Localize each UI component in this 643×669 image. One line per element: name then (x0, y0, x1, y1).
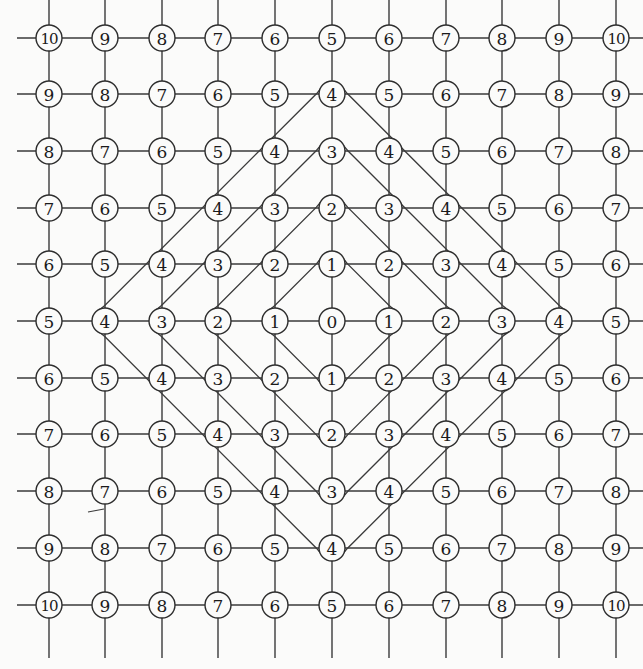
grid-node: 3 (262, 421, 288, 447)
grid-node: 9 (546, 592, 572, 618)
grid-node: 4 (546, 308, 572, 334)
node-label: 8 (100, 539, 111, 559)
node-label: 7 (157, 85, 168, 105)
node-label: 8 (44, 482, 55, 502)
grid-node: 7 (433, 25, 459, 51)
node-label: 7 (441, 29, 452, 49)
node-label: 2 (213, 312, 224, 332)
grid-node: 4 (376, 138, 402, 164)
grid-node: 10 (603, 25, 629, 51)
grid-node: 1 (319, 251, 345, 277)
grid-node: 3 (489, 308, 515, 334)
node-label: 3 (384, 425, 395, 445)
node-label: 1 (384, 312, 395, 332)
node-label: 9 (100, 29, 111, 49)
node-label: 3 (327, 142, 338, 162)
grid-node: 9 (36, 81, 62, 107)
node-label: 5 (554, 255, 565, 275)
node-label: 4 (384, 482, 395, 502)
grid-node: 4 (489, 365, 515, 391)
grid-node: 4 (489, 251, 515, 277)
grid-node: 7 (603, 195, 629, 221)
grid-node: 5 (262, 81, 288, 107)
node-label: 1 (327, 255, 338, 275)
grid-node: 10 (36, 592, 62, 618)
node-label: 1 (270, 312, 281, 332)
grid-node: 2 (262, 251, 288, 277)
grid-node: 5 (319, 592, 345, 618)
node-label: 2 (441, 312, 452, 332)
grid-node: 7 (205, 592, 231, 618)
node-label: 5 (327, 596, 338, 616)
grid-node: 5 (92, 365, 118, 391)
node-label: 7 (554, 482, 565, 502)
grid-node: 6 (489, 138, 515, 164)
node-label: 8 (554, 85, 565, 105)
node-label: 4 (441, 199, 452, 219)
node-label: 4 (327, 539, 338, 559)
node-label: 3 (157, 312, 168, 332)
node-label: 2 (270, 255, 281, 275)
grid-node: 6 (603, 251, 629, 277)
grid-node: 5 (376, 81, 402, 107)
grid-node: 2 (319, 421, 345, 447)
grid-node: 1 (319, 365, 345, 391)
node-label: 4 (270, 482, 281, 502)
grid-node: 5 (489, 421, 515, 447)
grid-node: 7 (36, 195, 62, 221)
grid-node: 6 (603, 365, 629, 391)
node-label: 9 (554, 596, 565, 616)
node-label: 7 (611, 199, 622, 219)
grid-node: 10 (36, 25, 62, 51)
grid-node: 8 (149, 592, 175, 618)
node-label: 5 (611, 312, 622, 332)
node-label: 9 (611, 85, 622, 105)
node-label: 6 (611, 369, 622, 389)
node-label: 6 (384, 29, 395, 49)
node-label: 2 (327, 199, 338, 219)
node-label: 4 (270, 142, 281, 162)
node-label: 2 (384, 369, 395, 389)
node-label: 5 (384, 539, 395, 559)
node-label: 6 (611, 255, 622, 275)
grid-node: 4 (376, 478, 402, 504)
node-label: 7 (44, 425, 55, 445)
grid-node: 10 (603, 592, 629, 618)
grid-node: 5 (319, 25, 345, 51)
grid-node: 7 (149, 535, 175, 561)
node-label: 9 (554, 29, 565, 49)
grid-node: 7 (433, 592, 459, 618)
grid-node: 2 (205, 308, 231, 334)
node-label: 7 (44, 199, 55, 219)
node-label: 0 (327, 312, 338, 332)
grid-node: 5 (262, 535, 288, 561)
node-label: 5 (441, 482, 452, 502)
node-label: 4 (100, 312, 111, 332)
node-label: 5 (213, 142, 224, 162)
grid-node: 6 (205, 81, 231, 107)
node-label: 7 (497, 85, 508, 105)
grid-node: 5 (489, 195, 515, 221)
grid-node: 6 (205, 535, 231, 561)
grid-node: 3 (319, 478, 345, 504)
grid-node: 7 (149, 81, 175, 107)
node-label: 2 (384, 255, 395, 275)
node-label: 6 (441, 539, 452, 559)
grid-node: 6 (92, 195, 118, 221)
grid-node: 7 (489, 535, 515, 561)
grid-node: 7 (92, 478, 118, 504)
node-label: 2 (327, 425, 338, 445)
node-label: 7 (611, 425, 622, 445)
node-label: 6 (554, 425, 565, 445)
node-label: 5 (213, 482, 224, 502)
node-label: 1 (327, 369, 338, 389)
node-label: 4 (213, 425, 224, 445)
grid-node: 6 (546, 195, 572, 221)
node-label: 4 (327, 85, 338, 105)
node-label: 6 (157, 482, 168, 502)
node-label: 5 (270, 539, 281, 559)
grid-node: 5 (546, 251, 572, 277)
node-label: 3 (327, 482, 338, 502)
node-label: 5 (384, 85, 395, 105)
node-label: 6 (100, 199, 111, 219)
